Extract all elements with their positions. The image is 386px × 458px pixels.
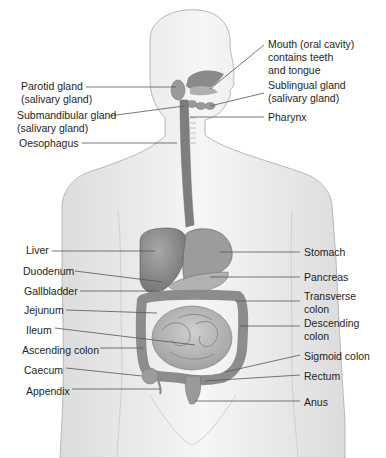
label-stomach: Stomach: [304, 246, 345, 259]
label-ascending-colon: Ascending colon: [22, 344, 99, 357]
label-appendix: Appendix: [26, 385, 70, 398]
label-mouth: Mouth (oral cavity) contains teeth and t…: [268, 38, 354, 77]
label-liver: Liver: [26, 244, 49, 257]
label-rectum: Rectum: [304, 370, 340, 383]
label-transverse-colon: Transverse colon: [304, 290, 356, 316]
parotid-gland: [171, 80, 185, 100]
label-parotid: Parotid gland (salivary gland): [21, 80, 92, 106]
label-caecum: Caecum: [24, 364, 63, 377]
small-intestine: [152, 306, 232, 370]
label-duodenum: Duodenum: [23, 265, 74, 278]
label-gallbladder: Gallbladder: [24, 285, 78, 298]
label-sublingual: Sublingual gland (salivary gland): [268, 79, 346, 105]
label-oesophagus: Oesophagus: [19, 137, 79, 150]
label-pancreas: Pancreas: [304, 271, 348, 284]
label-ileum: Ileum: [26, 324, 52, 337]
label-anus: Anus: [304, 396, 328, 409]
label-sigmoid-colon: Sigmoid colon: [304, 350, 370, 363]
digestive-system-diagram: Parotid gland (salivary gland)Submandibu…: [0, 0, 386, 458]
label-pharynx: Pharynx: [268, 111, 307, 124]
label-submandibular: Submandibular gland (salivary gland): [17, 109, 116, 135]
label-jejunum: Jejunum: [24, 304, 64, 317]
label-descending-colon: Descending colon: [304, 317, 359, 343]
caecum: [142, 368, 158, 384]
